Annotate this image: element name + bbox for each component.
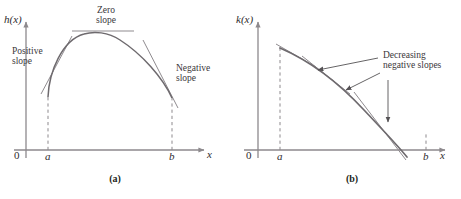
panel-b-leader-middle [346,73,380,90]
panel-b-caption: (b) [332,173,372,184]
panel-b: k(x) 0 a b x Decreasing negative slopes … [230,0,461,199]
panel-a-graphic [0,0,231,199]
panel-b-graphic [230,0,461,199]
panel-a-curve [48,32,172,98]
panel-a-tangent-negative [143,40,178,108]
panel-b-leader-upper [318,58,378,70]
calculus-slope-figure: h(x) 0 a b x Positive slope Zero slope N… [0,0,461,199]
panel-a-caption: (a) [95,173,135,184]
panel-a: h(x) 0 a b x Positive slope Zero slope N… [0,0,231,199]
